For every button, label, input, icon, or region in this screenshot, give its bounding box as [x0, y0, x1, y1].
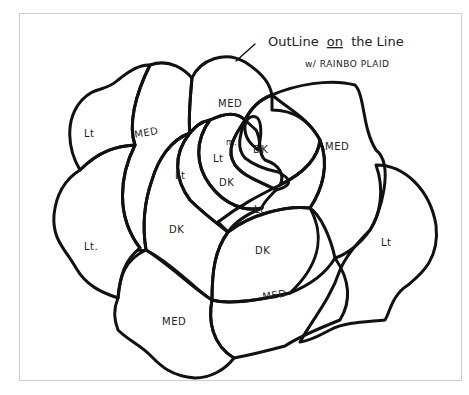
petal-left-med [123, 63, 193, 251]
label-left-med: MED [133, 125, 159, 140]
petal-right-lt [300, 165, 437, 342]
label-inner-dk-mid: DK [219, 177, 234, 188]
label-inner-lt-left: Lt [175, 170, 186, 181]
petal-inner-dk-right [245, 95, 320, 185]
petal-inner-lt-mid [199, 114, 276, 209]
label-center-dk-right: DK [255, 245, 270, 256]
annotation-the-line: the Line [351, 34, 404, 49]
label-center-dk-left: DK [169, 224, 184, 235]
label-bottom-right-med: MED [262, 288, 287, 302]
annotation-line2: w/ RAINBO PLAID [305, 59, 390, 69]
label-outer-left-bottom: Lt. [84, 241, 98, 252]
rose-pattern-drawing: Lt Lt. MED MED MED Lt MED MED DK DK Lt L… [0, 0, 469, 395]
annotation-line1: OutLine on the Line [268, 34, 404, 49]
label-inner-dk-right: DK [253, 144, 268, 155]
label-center-lt: Lt [254, 204, 265, 215]
label-right-lt: Lt [381, 237, 392, 248]
label-inner-lt-mid: Lt [213, 153, 224, 164]
label-inner-m: m. [226, 138, 237, 147]
label-top-med: MED [218, 98, 242, 109]
petal-outer-left-top [70, 65, 150, 170]
annotation-on: on [327, 34, 343, 49]
annotation-outline: OutLine [268, 34, 319, 49]
label-right-med: MED [325, 141, 349, 152]
label-outer-left-top: Lt [84, 128, 95, 139]
label-bottom-left-med: MED [162, 316, 186, 327]
petal-bottom-right-med [211, 258, 348, 358]
